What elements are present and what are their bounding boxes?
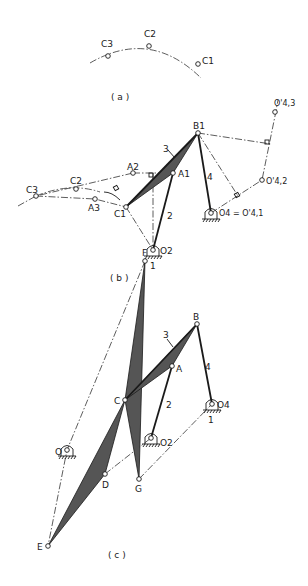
- pin-o4-3: [273, 110, 278, 115]
- linkage-synthesis-diagram: C3 C2 C1 ( a ): [0, 0, 308, 586]
- label-link-3-b: 3: [163, 144, 169, 154]
- label-a2: A2: [127, 162, 139, 172]
- label-o4-c: O4: [217, 400, 230, 410]
- right-angle-marker: [113, 185, 118, 190]
- label-link-4-c: 4: [205, 362, 211, 372]
- pin-g: [137, 477, 142, 482]
- pin-b1: [196, 131, 201, 136]
- label-link-2-b: 2: [167, 211, 173, 221]
- label-c: C: [114, 396, 120, 406]
- label-a3: A3: [88, 203, 100, 213]
- panel-b: B1 A1 A2 A3 C1 C2 C3 O2 O4 = O'4,1 O'4,2…: [18, 99, 295, 283]
- label-b: B: [193, 312, 199, 322]
- label-e: E: [37, 542, 43, 552]
- coupler-curve-a: [90, 49, 201, 78]
- label-a: A: [176, 364, 183, 374]
- leader-3-c: [167, 339, 173, 347]
- label-link-4-b: 4: [207, 172, 213, 182]
- pin-d: [103, 472, 108, 477]
- label-o4-2: O'4,2: [266, 177, 287, 186]
- triangle-cfg: [125, 261, 145, 479]
- pin-o4-b: [209, 211, 214, 216]
- right-angle-marker: [149, 173, 153, 177]
- coupler-curve-b: [36, 188, 100, 196]
- pin-a1: [171, 171, 176, 176]
- label-link-1-c: 1: [208, 415, 214, 425]
- label-link-1-b: 1: [150, 261, 156, 271]
- caption-a: ( a ): [111, 92, 129, 102]
- label-o2-c: O2: [160, 438, 173, 448]
- caption-b-text: ( b ): [110, 273, 128, 283]
- angle-arc-b: [104, 192, 120, 200]
- label-c3-a: C3: [101, 39, 113, 49]
- label-link-2-c: 2: [166, 400, 172, 410]
- label-g: G: [135, 484, 142, 494]
- caption-c: ( c ): [108, 550, 126, 560]
- pin-c2-b: [74, 187, 79, 192]
- pin-c: [123, 398, 128, 403]
- pin-a3: [93, 197, 98, 202]
- label-o4-3: O'4,3: [274, 99, 295, 108]
- construction-lines-b: [18, 100, 278, 250]
- right-angle-marker: [234, 192, 239, 197]
- leader-3-b: [168, 150, 175, 158]
- panel-c: F B A C O4 O2 O D G E 3 2 4 1 ( c ): [37, 248, 230, 560]
- pin-e: [46, 544, 51, 549]
- label-b1: B1: [193, 121, 205, 131]
- pin-a: [170, 364, 175, 369]
- point-c1-a: [196, 62, 201, 67]
- label-o4-eq: O4 = O'4,1: [219, 209, 263, 218]
- pin-o4-c: [210, 402, 215, 407]
- label-o2-b: O2: [160, 246, 173, 256]
- pin-b: [195, 322, 200, 327]
- label-c1-a: C1: [202, 56, 214, 66]
- label-c3-b: C3: [26, 185, 38, 195]
- label-f: F: [142, 248, 147, 258]
- pin-o2-b: [151, 248, 156, 253]
- label-a1: A1: [178, 169, 190, 179]
- label-c2-a: C2: [144, 29, 156, 39]
- pin-o-c: [65, 448, 70, 453]
- point-c3-a: [106, 54, 111, 59]
- pin-o4-2: [260, 178, 265, 183]
- panel-a: C3 C2 C1 ( a ): [90, 29, 214, 102]
- triangle-ced: [48, 400, 125, 546]
- point-c2-a: [147, 44, 152, 49]
- label-c1-b: C1: [114, 209, 126, 219]
- label-link-3-c: 3: [163, 330, 169, 340]
- label-o-c: O: [55, 447, 62, 457]
- pin-f: [143, 259, 148, 264]
- label-d: D: [102, 480, 109, 490]
- label-c2-b: C2: [70, 176, 82, 186]
- pin-o2-c: [149, 436, 154, 441]
